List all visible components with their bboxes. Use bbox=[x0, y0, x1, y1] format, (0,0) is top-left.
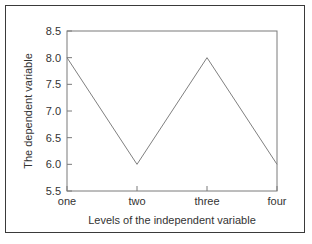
x-axis-title: Levels of the independent variable bbox=[88, 214, 256, 226]
y-axis-title: The dependent variable bbox=[22, 53, 34, 169]
data-series-line bbox=[67, 58, 277, 165]
y-tick-label: 8.5 bbox=[46, 25, 61, 37]
y-tick-label: 7.0 bbox=[46, 105, 61, 117]
line-chart: 8.5 8.0 7.5 7.0 6.5 6.0 5.5 one two thre… bbox=[0, 0, 312, 244]
x-axis-ticks bbox=[67, 186, 277, 191]
y-tick-label: 6.5 bbox=[46, 132, 61, 144]
y-tick-label: 8.0 bbox=[46, 52, 61, 64]
y-axis-ticks bbox=[67, 31, 72, 191]
figure-root: 8.5 8.0 7.5 7.0 6.5 6.0 5.5 one two thre… bbox=[0, 0, 312, 244]
x-tick-label: three bbox=[194, 195, 219, 207]
x-tick-label: one bbox=[58, 195, 76, 207]
x-tick-label: two bbox=[128, 195, 145, 207]
y-tick-label: 6.0 bbox=[46, 158, 61, 170]
y-tick-label: 7.5 bbox=[46, 78, 61, 90]
x-tick-label: four bbox=[268, 195, 287, 207]
